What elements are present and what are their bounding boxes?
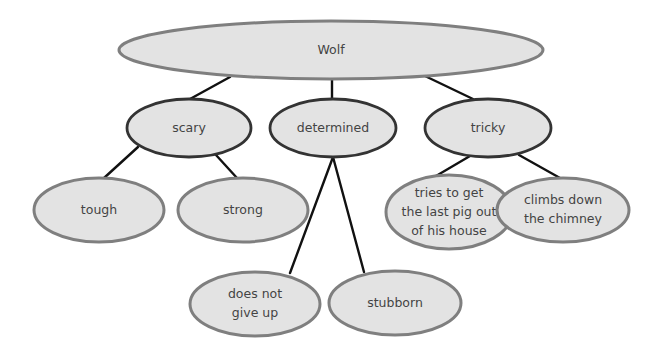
detail-ellipse (190, 272, 320, 336)
detail-label: tough (81, 202, 117, 217)
detail-node-tough: tough (34, 178, 164, 242)
edge-tricky-to-tries (436, 156, 470, 176)
detail-label: of his house (411, 223, 487, 238)
trait-node-determined: determined (270, 99, 396, 157)
trait-node-scary: scary (127, 99, 251, 157)
wolf-character-map: Wolfscarydeterminedtrickytoughstrongtrie… (0, 0, 663, 353)
detail-label: climbs down (524, 192, 602, 207)
detail-label: the chimney (524, 211, 603, 226)
trait-label: tricky (471, 120, 506, 135)
trait-label: scary (172, 120, 206, 135)
detail-ellipse (497, 178, 629, 242)
detail-label: strong (223, 202, 263, 217)
diagram-canvas: Wolfscarydeterminedtrickytoughstrongtrie… (0, 0, 663, 353)
edge-tricky-to-climbs (519, 155, 560, 178)
edge-scary-to-strong (216, 155, 237, 178)
detail-node-tries: tries to getthe last pig outof his house (386, 175, 512, 249)
root-node-wolf: Wolf (119, 21, 543, 79)
detail-node-climbs: climbs downthe chimney (497, 178, 629, 242)
detail-label: give up (232, 305, 278, 320)
trait-node-tricky: tricky (425, 99, 551, 157)
detail-label: does not (228, 286, 282, 301)
root-label: Wolf (317, 42, 345, 57)
edge-wolf-to-tricky (425, 76, 473, 99)
detail-node-gives-up: does notgive up (190, 272, 320, 336)
edge-determined-to-stubborn (333, 157, 364, 272)
detail-label: tries to get (415, 185, 484, 200)
edge-wolf-to-scary (190, 77, 230, 99)
detail-label: stubborn (367, 295, 423, 310)
detail-label: the last pig out (402, 204, 497, 219)
nodes: Wolfscarydeterminedtrickytoughstrongtrie… (34, 21, 629, 336)
trait-label: determined (297, 120, 369, 135)
detail-node-stubborn: stubborn (329, 271, 461, 335)
detail-node-strong: strong (178, 178, 308, 242)
edge-scary-to-tough (104, 147, 138, 178)
